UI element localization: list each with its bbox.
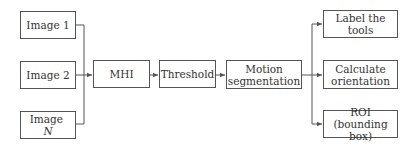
label-line2: box) xyxy=(349,130,372,142)
calculate-orientation-box: Calculate orientation xyxy=(323,60,398,89)
label: Label the tools xyxy=(324,12,397,36)
label: Threshold xyxy=(161,68,215,80)
input-image-2: Image 2 xyxy=(20,61,76,89)
label-line1: Motion xyxy=(245,63,283,75)
label: Image 2 xyxy=(26,69,69,81)
label-line1: Calculate xyxy=(335,63,385,75)
input-image-n: Image N xyxy=(20,111,76,139)
threshold-box: Threshold xyxy=(159,60,216,88)
label: Image 1 xyxy=(26,19,69,31)
label-line1: ROI (bounding xyxy=(324,106,397,130)
roi-bounding-box: ROI (bounding box) xyxy=(323,110,398,138)
label-tools-box: Label the tools xyxy=(323,10,398,38)
label: MHI xyxy=(109,68,133,80)
label-line2: segmentation xyxy=(228,75,300,87)
input-image-1: Image 1 xyxy=(20,11,76,39)
label-line2: orientation xyxy=(331,75,390,87)
motion-segmentation-box: Motion segmentation xyxy=(226,60,302,89)
label: Image xyxy=(30,113,67,125)
mhi-box: MHI xyxy=(93,60,150,88)
label-italic-n: N xyxy=(43,125,52,137)
